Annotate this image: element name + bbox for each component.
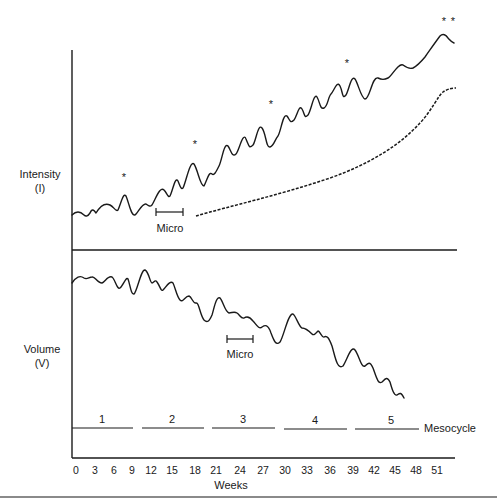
svg-text:48: 48 (410, 464, 422, 476)
volume-label: Volume (24, 343, 61, 355)
peak-marker: * (122, 171, 127, 183)
svg-text:30: 30 (279, 464, 291, 476)
periodization-chart: Intensity (I) Volume (V) * * * * * * Mic… (0, 0, 497, 501)
peak-marker: * (442, 15, 447, 27)
svg-text:21: 21 (210, 464, 222, 476)
svg-text:42: 42 (368, 464, 380, 476)
svg-text:51: 51 (431, 464, 443, 476)
mesocycle-4-label: 4 (312, 414, 318, 426)
intensity-trend-curve (196, 88, 456, 216)
micro-bracket-volume (227, 335, 253, 343)
mesocycle-2-label: 2 (169, 413, 175, 425)
micro-label-volume: Micro (227, 348, 254, 360)
svg-text:39: 39 (347, 464, 359, 476)
volume-curve (72, 270, 404, 398)
svg-text:24: 24 (234, 464, 246, 476)
x-axis-title: Weeks (214, 479, 248, 491)
mesocycle-3-label: 3 (240, 413, 246, 425)
peak-marker: * (193, 138, 198, 150)
intensity-label: Intensity (20, 168, 61, 180)
intensity-label-abbrev: (I) (35, 182, 45, 194)
peak-marker: * (451, 15, 456, 27)
svg-text:6: 6 (111, 464, 117, 476)
svg-text:33: 33 (301, 464, 313, 476)
svg-text:9: 9 (129, 464, 135, 476)
frame-bottom-border (0, 496, 497, 498)
volume-label-abbrev: (V) (35, 357, 50, 369)
mesocycle-row: 1 2 3 4 5 Mesocycle (72, 413, 476, 434)
svg-text:36: 36 (324, 464, 336, 476)
mesocycle-axis-label: Mesocycle (424, 422, 476, 434)
peak-marker: * (345, 57, 350, 69)
svg-text:45: 45 (389, 464, 401, 476)
micro-label-intensity: Micro (157, 222, 184, 234)
svg-text:12: 12 (145, 464, 157, 476)
intensity-curve (72, 35, 454, 217)
mesocycle-5-label: 5 (388, 414, 394, 426)
svg-text:0: 0 (73, 464, 79, 476)
svg-text:27: 27 (257, 464, 269, 476)
svg-text:18: 18 (189, 464, 201, 476)
x-tick-labels: 0 3 6 9 12 15 18 21 24 27 30 33 36 39 42… (73, 464, 443, 476)
svg-text:15: 15 (166, 464, 178, 476)
peak-marker: * (269, 98, 274, 110)
micro-bracket-intensity (156, 208, 183, 216)
mesocycle-1-label: 1 (99, 413, 105, 425)
svg-text:3: 3 (92, 464, 98, 476)
